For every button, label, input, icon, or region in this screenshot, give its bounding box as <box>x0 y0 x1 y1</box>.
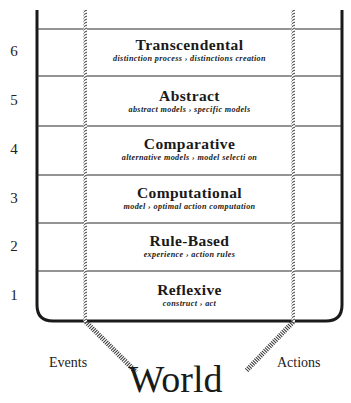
level-title: Computational <box>86 184 293 201</box>
level-subtitle: alternative models › model selecti on <box>86 152 293 163</box>
level-number-6: 6 <box>4 43 24 60</box>
level-title: Rule-Based <box>86 232 293 249</box>
level-title: Reflexive <box>86 281 293 298</box>
level-comparative: Comparative alternative models › model s… <box>86 135 293 163</box>
level-title: Abstract <box>86 87 293 104</box>
world-label: World <box>0 358 351 400</box>
level-subtitle: construct › act <box>86 298 293 309</box>
level-subtitle: experience › action rules <box>86 249 293 260</box>
level-computational: Computational model › optimal action com… <box>86 184 293 212</box>
level-reflexive: Reflexive construct › act <box>86 281 293 309</box>
level-title: Comparative <box>86 135 293 152</box>
level-subtitle: distinction process › distinctions creat… <box>86 53 293 64</box>
level-transcendental: Transcendental distinction process › dis… <box>86 36 293 64</box>
level-number-4: 4 <box>4 141 24 158</box>
level-number-3: 3 <box>4 190 24 207</box>
level-abstract: Abstract abstract models › specific mode… <box>86 87 293 115</box>
level-number-5: 5 <box>4 92 24 109</box>
level-subtitle: model › optimal action computation <box>86 201 293 212</box>
level-rule-based: Rule-Based experience › action rules <box>86 232 293 260</box>
level-number-1: 1 <box>4 287 24 304</box>
level-number-2: 2 <box>4 238 24 255</box>
level-subtitle: abstract models › specific models <box>86 104 293 115</box>
level-title: Transcendental <box>86 36 293 53</box>
